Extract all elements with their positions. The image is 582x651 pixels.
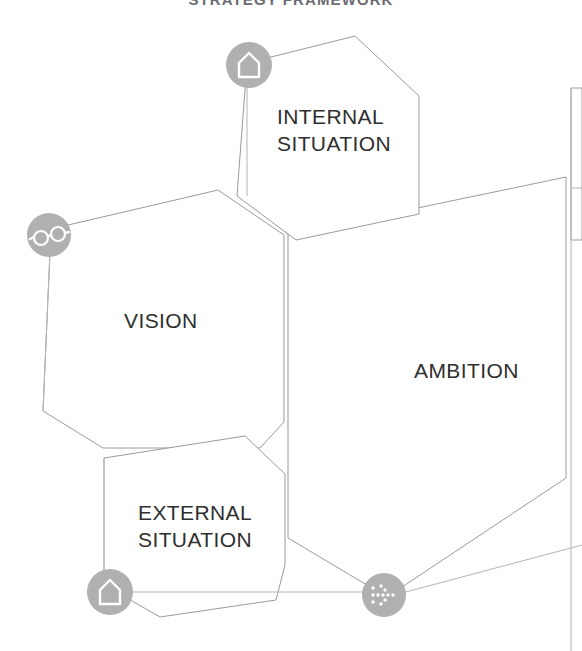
dotted-arrow-icon-dot — [371, 586, 374, 589]
strategy-framework-graphic — [0, 0, 582, 651]
shape-offscreen-right — [571, 88, 582, 651]
glasses-icon-bridge — [48, 236, 51, 237]
node-vision[interactable] — [27, 213, 71, 257]
shape-offscreen-right-outline — [571, 88, 582, 240]
shape-vision-outline — [43, 190, 284, 448]
shape-ambition-outline — [288, 177, 566, 597]
glasses-icon-right-temple — [65, 232, 69, 233]
node-external-situation[interactable] — [87, 569, 133, 615]
dotted-arrow-icon-dot — [379, 602, 382, 605]
node-internal-situation-circle[interactable] — [226, 42, 272, 88]
dotted-arrow-icon-dot — [386, 593, 389, 596]
node-ambition[interactable] — [362, 573, 406, 617]
dotted-arrow-icon-dot — [371, 600, 374, 603]
dotted-arrow-icon-dot — [376, 593, 379, 596]
dotted-arrow-icon-dot — [383, 588, 386, 591]
dotted-arrow-icon-dot — [371, 593, 374, 596]
diagram-canvas: STRATEGY FRAMEWORK INTERNAL SITUATION VI… — [0, 0, 582, 651]
dotted-arrow-icon-dot — [391, 593, 394, 596]
node-external-situation-circle[interactable] — [87, 569, 133, 615]
shape-ambition — [283, 177, 582, 597]
shape-vision — [43, 190, 284, 448]
dotted-arrow-icon-dot — [383, 598, 386, 601]
dotted-arrow-icon-dot — [381, 593, 384, 596]
dotted-arrow-icon-dot — [379, 584, 382, 587]
node-internal-situation[interactable] — [226, 42, 272, 88]
